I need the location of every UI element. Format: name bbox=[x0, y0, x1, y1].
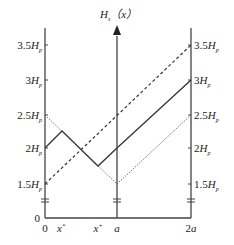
svg-text:0: 0 bbox=[35, 212, 41, 224]
svg-text:1.5Hp: 1.5Hp bbox=[17, 178, 42, 192]
svg-text:x*: x* bbox=[56, 222, 65, 234]
svg-text:3.5Hp: 3.5Hp bbox=[194, 39, 219, 53]
svg-text:3Hp: 3Hp bbox=[26, 74, 42, 88]
svg-text:2Hp: 2Hp bbox=[194, 142, 210, 156]
svg-text:2Hp: 2Hp bbox=[26, 142, 42, 156]
hs-diagram: Hs（x） 3.5Hp 3Hp 2.5Hp 2Hp 1.5Hp 0 3.5Hp … bbox=[0, 0, 234, 245]
svg-text:2.5Hp: 2.5Hp bbox=[194, 109, 219, 123]
right-y-labels: 3.5Hp 3Hp 2.5Hp 2Hp 1.5Hp bbox=[194, 39, 219, 192]
svg-text:0: 0 bbox=[42, 222, 48, 234]
svg-text:3.5Hp: 3.5Hp bbox=[17, 39, 42, 53]
axis-title: Hs（x） bbox=[99, 8, 137, 22]
x-labels: 0 x* x+ a 2a bbox=[42, 222, 197, 234]
svg-text:3Hp: 3Hp bbox=[194, 74, 210, 88]
dashed-line bbox=[45, 45, 191, 184]
solid-line bbox=[45, 80, 191, 166]
left-y-labels: 3.5Hp 3Hp 2.5Hp 2Hp 1.5Hp 0 bbox=[17, 39, 42, 224]
svg-text:a: a bbox=[114, 222, 120, 234]
svg-text:2a: 2a bbox=[186, 222, 198, 234]
axis-break-marks bbox=[41, 199, 195, 202]
dotted-line bbox=[45, 115, 191, 184]
svg-text:2.5Hp: 2.5Hp bbox=[17, 109, 42, 123]
svg-text:x+: x+ bbox=[93, 222, 103, 234]
svg-text:1.5Hp: 1.5Hp bbox=[194, 178, 219, 192]
arrow-up-icon bbox=[113, 25, 121, 35]
